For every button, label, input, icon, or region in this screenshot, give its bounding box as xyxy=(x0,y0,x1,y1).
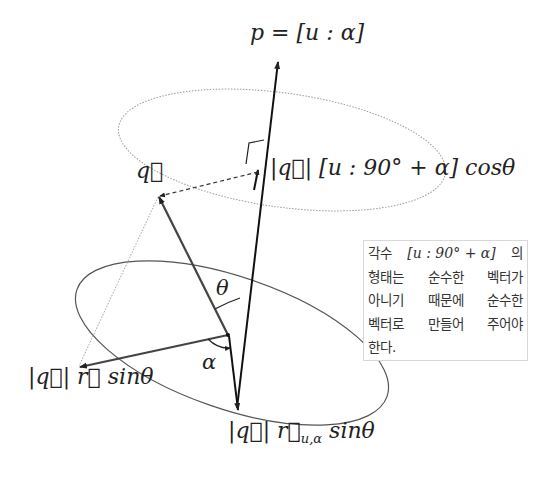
vector-diagram xyxy=(0,0,550,477)
label-left-component: |q⃗| r⃗ sinθ xyxy=(28,364,154,389)
note-line: 한다. xyxy=(368,336,523,360)
note-word: 벡터로 xyxy=(368,313,404,337)
alpha-arc xyxy=(208,339,230,348)
note-word: 만들어 xyxy=(428,313,464,337)
note-word: 한다. xyxy=(368,336,396,360)
note-word: 때문에 xyxy=(428,289,464,313)
note-word: 순수한 xyxy=(487,289,523,313)
note-word: 의 xyxy=(511,242,523,266)
label-p-axis: p = [u : α] xyxy=(250,20,364,45)
note-box: 각수 [u : 90° + α] 의 형태는 순수한 벡터가 아니기 때문에 순… xyxy=(363,240,528,361)
note-word: 벡터가 xyxy=(487,266,523,290)
note-word: 아니기 xyxy=(368,289,404,313)
note-word: 순수한 xyxy=(428,266,464,290)
label-theta: θ xyxy=(216,276,229,300)
right-angle-marker xyxy=(246,140,264,164)
projection-dashed-line xyxy=(160,172,258,196)
label-q-vector: q⃗ xyxy=(136,158,163,183)
note-word: 주어야 xyxy=(487,313,523,337)
note-line: 벡터로 만들어 주어야 xyxy=(368,313,523,337)
origin-point xyxy=(226,333,230,337)
r-u-alpha-vector xyxy=(229,336,238,410)
label-projection: |q⃗| [u : 90° + α] cosθ xyxy=(270,155,515,180)
note-line: 각수 [u : 90° + α] 의 xyxy=(368,242,523,266)
note-line: 형태는 순수한 벡터가 xyxy=(368,266,523,290)
p-axis-vector xyxy=(237,62,278,408)
note-word: 각수 xyxy=(368,242,392,266)
note-line: 아니기 때문에 순수한 xyxy=(368,289,523,313)
q-vector xyxy=(159,197,228,335)
note-word: 형태는 xyxy=(368,266,404,290)
label-alpha: α xyxy=(202,350,216,374)
label-bottom-component: |q⃗| r⃗u,α sinθ xyxy=(228,418,375,446)
q-drop-line xyxy=(79,197,158,366)
note-math: [u : 90° + α] xyxy=(407,242,495,266)
